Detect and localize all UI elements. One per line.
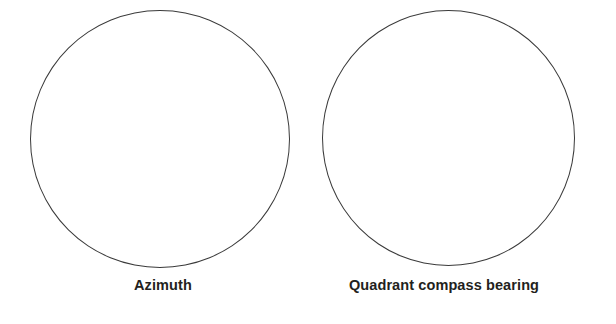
- azimuth-dial-circle-icon: [30, 10, 290, 268]
- azimuth-caption: Azimuth: [33, 277, 293, 294]
- quadrant-dial-circle-icon: [322, 10, 575, 266]
- figure-page: Azimuth Quadrant compass bearing: [0, 0, 616, 324]
- compass-bearing-figure: Azimuth Quadrant compass bearing: [0, 0, 616, 324]
- quadrant-compass-bearing-caption: Quadrant compass bearing: [320, 277, 568, 294]
